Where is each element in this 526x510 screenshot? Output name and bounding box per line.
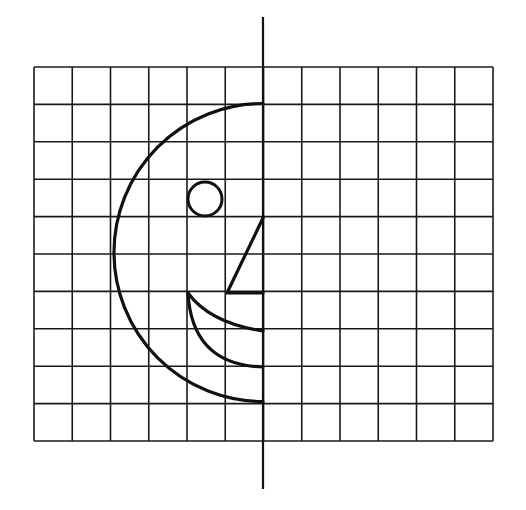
head-outline-arc — [114, 104, 263, 402]
eye-circle — [188, 182, 222, 216]
nose — [227, 218, 263, 293]
symmetry-diagram — [0, 0, 526, 510]
